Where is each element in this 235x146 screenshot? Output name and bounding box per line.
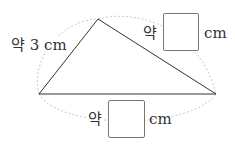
bottom-side-answer-box[interactable] — [108, 100, 145, 138]
right-side-unit: cm — [204, 25, 227, 41]
right-side-answer-box[interactable] — [163, 13, 199, 51]
bottom-side-prefix: 약 — [88, 111, 102, 127]
left-side-label: 약 3 cm — [11, 37, 67, 53]
right-side-prefix: 약 — [143, 25, 157, 41]
bottom-side-unit: cm — [149, 111, 172, 127]
